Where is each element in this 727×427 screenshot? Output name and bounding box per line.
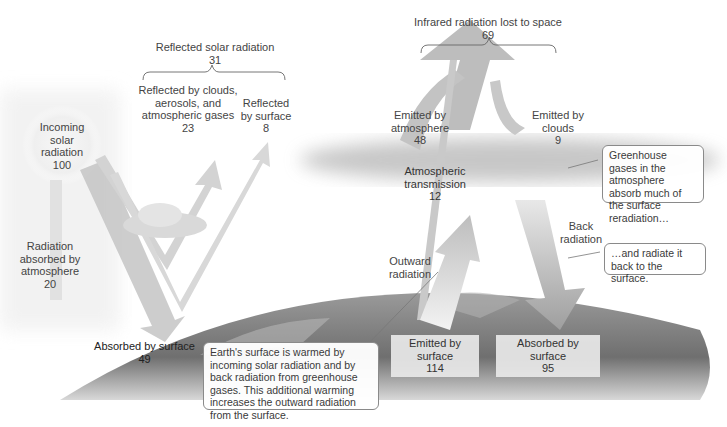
reflected-solar-label: Reflected solar radiation 31 <box>140 41 290 66</box>
absorbed-surface-back-tag: Absorbed by surface 95 <box>496 335 600 377</box>
reflected-brace <box>143 65 285 80</box>
energy-budget-diagram: Reflected solar radiation 31 Reflected b… <box>0 0 727 427</box>
label-value: 9 <box>530 134 586 147</box>
absorbed-surface-solar-label: Absorbed by surface 49 <box>92 340 197 365</box>
label-line: radiation <box>382 268 438 281</box>
radiate-back-callout: …and radiate it back to the surface. <box>604 243 706 275</box>
greenhouse-callout: Greenhouse gases in the atmosphere absor… <box>602 145 704 203</box>
label-line: Outward <box>382 255 438 268</box>
label-line: solar <box>32 134 92 147</box>
reflected-solar-title: Reflected solar radiation <box>140 41 290 54</box>
infrared-lost-title: Infrared radiation lost to space <box>408 16 568 29</box>
back-radiation-label: Back radiation <box>556 220 606 245</box>
label-value: 48 <box>388 134 452 147</box>
label-line: transmission <box>400 178 470 191</box>
label-line: Incoming <box>32 121 92 134</box>
atmospheric-transmission-label: Atmospheric transmission 12 <box>400 165 470 203</box>
infrared-lost-value: 69 <box>408 29 568 42</box>
label-line: Absorbed by surface <box>92 340 197 353</box>
label-value: 100 <box>32 159 92 172</box>
emitted-clouds-label: Emitted by clouds 9 <box>530 109 586 147</box>
incoming-solar-label: Incoming solar radiation 100 <box>32 121 92 171</box>
label-line: Back <box>556 220 606 233</box>
emitted-surface-tag: Emitted by surface 114 <box>391 335 479 377</box>
label-value: 49 <box>92 353 197 366</box>
label-line: Emitted by surface <box>395 337 475 362</box>
label-line: Absorbed by surface <box>500 337 596 362</box>
label-value: 12 <box>400 190 470 203</box>
absorbed-atmosphere-label: Radiation absorbed by atmosphere 20 <box>14 240 86 290</box>
label-line: radiation <box>32 146 92 159</box>
label-line: by surface <box>238 110 294 123</box>
label-line: aerosols, and <box>138 97 238 110</box>
label-value: 23 <box>138 122 238 135</box>
label-line: Emitted by <box>530 109 586 122</box>
label-line: Radiation <box>14 240 86 253</box>
emitted-atmosphere-label: Emitted by atmosphere 48 <box>388 109 452 147</box>
label-line: Atmospheric <box>400 165 470 178</box>
label-value: 8 <box>238 122 294 135</box>
label-line: Emitted by <box>388 109 452 122</box>
label-value: 20 <box>14 278 86 291</box>
earth-warmed-callout: Earth's surface is warmed by incoming so… <box>203 342 379 410</box>
label-line: Reflected <box>238 97 294 110</box>
label-line: absorbed by <box>14 253 86 266</box>
outward-radiation-label: Outward radiation <box>382 255 438 280</box>
reflected-solar-value: 31 <box>140 54 290 67</box>
label-line: atmosphere <box>14 265 86 278</box>
infrared-lost-label: Infrared radiation lost to space 69 <box>408 16 568 41</box>
label-line: atmosphere <box>388 122 452 135</box>
label-line: atmospheric gases <box>138 109 238 122</box>
label-value: 114 <box>395 362 475 375</box>
label-line: Reflected by clouds, <box>138 84 238 97</box>
label-line: radiation <box>556 233 606 246</box>
label-value: 95 <box>500 362 596 375</box>
reflected-clouds-label: Reflected by clouds, aerosols, and atmos… <box>138 84 238 134</box>
reflected-surface-label: Reflected by surface 8 <box>238 97 294 135</box>
label-line: clouds <box>530 122 586 135</box>
